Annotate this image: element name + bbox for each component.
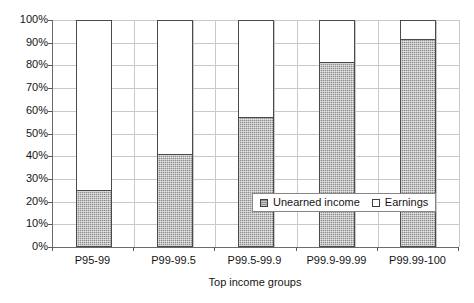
gridline-vertical [274,20,275,247]
y-axis-tick-mark [48,65,52,66]
y-axis-tick-label: 0% [2,241,48,252]
bar-group-p99-99-100[interactable] [400,20,436,247]
y-axis: 100%90%80%70%60%50%40%30%20%10%0% [0,0,48,303]
bar-group-p99-99-5[interactable] [157,20,193,247]
bar-segment-earnings[interactable] [400,20,436,247]
y-axis-tick-mark [48,43,52,44]
gridline-vertical [134,20,135,247]
y-axis-tick-mark [48,156,52,157]
bar-segment-unearned-income[interactable] [239,117,273,246]
stacked-bar-chart: 100%90%80%70%60%50%40%30%20%10%0% P95-99… [0,0,474,303]
x-axis-tick-mark [133,247,134,251]
bar-segment-unearned-income[interactable] [77,190,111,246]
plot-area [52,20,459,248]
bar-segment-earnings[interactable] [76,20,112,247]
x-axis-tick-mark [377,247,378,251]
x-axis-tick-mark [214,247,215,251]
x-axis-tick-label: P95-99 [52,254,133,266]
bar-segment-earnings[interactable] [238,20,274,247]
y-axis-tick-mark [48,247,52,248]
y-axis-tick-label: 30% [2,173,48,184]
bar-segment-unearned-income[interactable] [320,62,354,246]
legend-label-earnings: Earnings [385,197,428,208]
bar-segment-unearned-income[interactable] [158,154,192,246]
y-axis-tick-mark [48,20,52,21]
legend-swatch-icon-earnings [372,199,380,207]
x-axis-tick-label: P99.9-99.99 [296,254,377,266]
x-axis-tick-label: P99.99-100 [377,254,458,266]
gridline-vertical [193,20,194,247]
bar-group-p99-5-99-9[interactable] [238,20,274,247]
legend-item-earnings[interactable]: Earnings [372,197,428,208]
x-axis-tick-label: P99.5-99.9 [214,254,295,266]
bar-segment-earnings[interactable] [319,20,355,247]
y-axis-tick-label: 50% [2,128,48,139]
x-axis-tick-mark [458,247,459,251]
y-axis-tick-label: 80% [2,59,48,70]
x-axis-tick-label: P99-99.5 [133,254,214,266]
gridline-vertical [355,20,356,247]
y-axis-tick-mark [48,202,52,203]
gridline-vertical [459,20,460,247]
gridline-vertical [436,20,437,247]
y-axis-tick-mark [48,224,52,225]
y-axis-tick-label: 60% [2,105,48,116]
bar-group-p99-9-99-99[interactable] [319,20,355,247]
chart-legend: Unearned income Earnings [252,193,436,212]
legend-item-unearned-income[interactable]: Unearned income [260,197,360,208]
y-axis-tick-mark [48,111,52,112]
x-axis-title: Top income groups [52,276,458,289]
y-axis-tick-label: 10% [2,218,48,229]
y-axis-tick-label: 40% [2,150,48,161]
y-axis-tick-label: 90% [2,37,48,48]
bar-segment-earnings[interactable] [157,20,193,247]
legend-swatch-icon-unearned-income [260,199,268,207]
legend-label-unearned-income: Unearned income [273,197,360,208]
gridline-vertical [215,20,216,247]
bar-group-p95-99[interactable] [76,20,112,247]
y-axis-tick-mark [48,179,52,180]
y-axis-tick-mark [48,88,52,89]
y-axis-tick-label: 100% [2,14,48,25]
y-axis-tick-label: 70% [2,82,48,93]
x-axis-tick-mark [52,247,53,251]
y-axis-tick-mark [48,134,52,135]
bar-segment-unearned-income[interactable] [401,39,435,246]
x-axis-tick-mark [296,247,297,251]
y-axis-tick-label: 20% [2,196,48,207]
gridline-vertical [378,20,379,247]
gridline-vertical [297,20,298,247]
